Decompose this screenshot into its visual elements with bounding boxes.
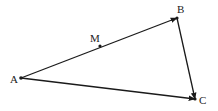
- label-b: B: [177, 3, 184, 15]
- label-m: M: [90, 32, 100, 44]
- vector-bc: [177, 18, 195, 99]
- label-a: A: [10, 73, 18, 85]
- vector-ac: [21, 78, 195, 99]
- point-c: [193, 97, 196, 100]
- point-a: [19, 76, 23, 80]
- point-b: [175, 16, 178, 19]
- triangle-vector-diagram: A M B C: [0, 0, 218, 111]
- point-m: [98, 44, 101, 47]
- vector-ab: [21, 18, 177, 78]
- label-c: C: [199, 94, 206, 106]
